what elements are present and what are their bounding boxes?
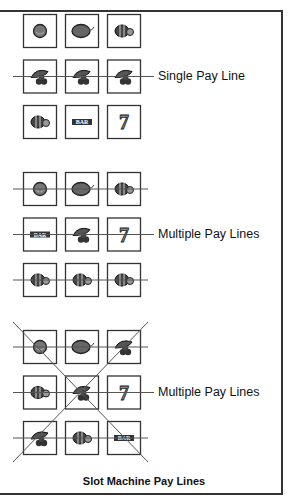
multiple-pay-lines-label-2: Multiple Pay Lines bbox=[158, 385, 259, 399]
pay-line-group-3: 7BAR bbox=[13, 322, 154, 462]
diagram-caption: Slot Machine Pay Lines bbox=[0, 475, 288, 487]
seven-icon: 7 bbox=[119, 111, 129, 133]
svg-text:7: 7 bbox=[119, 111, 129, 133]
plum-icon bbox=[34, 25, 47, 38]
single-pay-line-label: Single Pay Line bbox=[158, 69, 245, 83]
multiple-pay-lines-label-1: Multiple Pay Lines bbox=[158, 227, 259, 241]
pay-line-group-2: BAR7 bbox=[13, 173, 154, 297]
svg-text:BAR: BAR bbox=[76, 119, 89, 125]
bar-icon: BAR bbox=[72, 119, 92, 125]
pay-line-group-1: BAR7 bbox=[13, 15, 154, 139]
